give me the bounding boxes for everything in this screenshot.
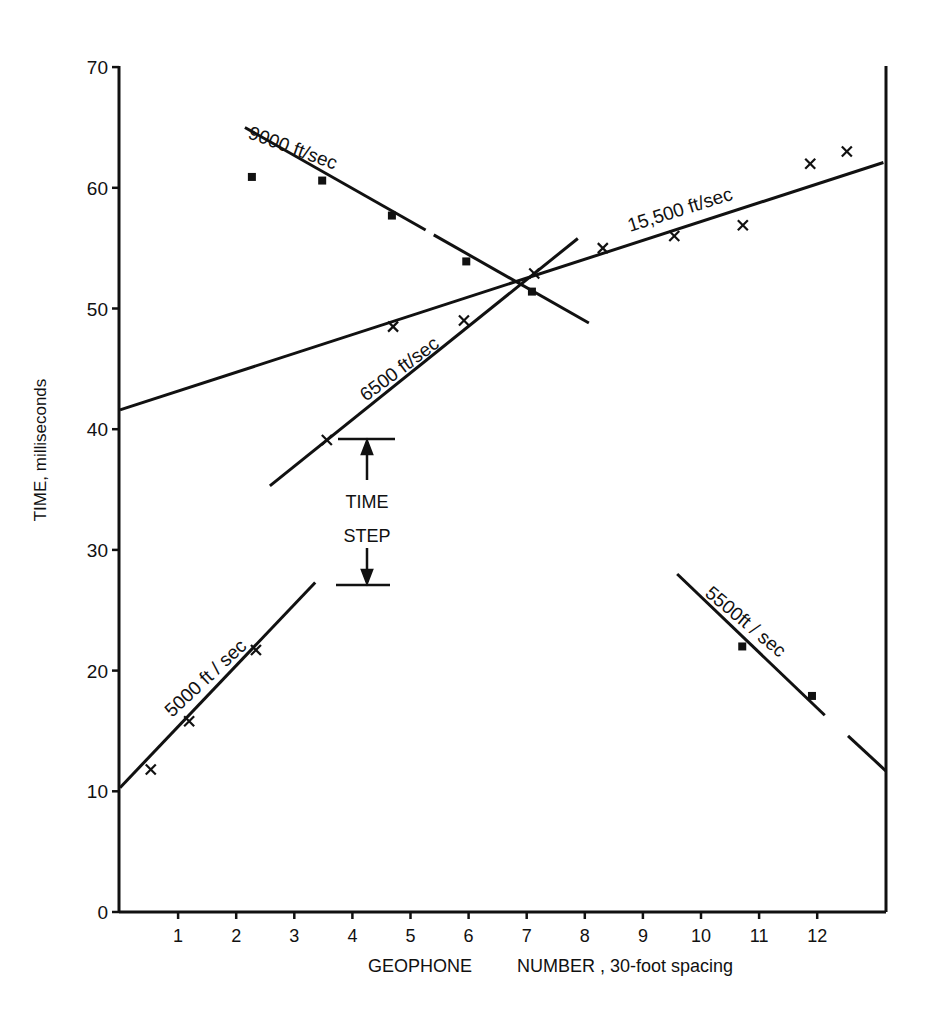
- x-marker: [669, 231, 679, 241]
- square-marker: [462, 257, 470, 265]
- y-tick-label: 30: [87, 540, 108, 561]
- x-marker: [388, 322, 398, 332]
- x-marker: [459, 316, 469, 326]
- square-marker: [738, 642, 746, 650]
- line-labels: 15,500 ft/sec 9000 ft/sec 6500 ft/sec 50…: [160, 122, 790, 721]
- fit-lines: [120, 127, 886, 787]
- x-tick-label: 9: [638, 926, 648, 946]
- x-tick-label: 11: [750, 926, 769, 946]
- x-marker: [738, 220, 748, 230]
- fit-line-segment: [677, 574, 825, 715]
- x-tick-label: 6: [464, 926, 474, 946]
- square-marker: [318, 177, 326, 185]
- arrow-up-icon: [362, 441, 372, 454]
- data-markers: [146, 147, 852, 775]
- x-tick-label: 1: [173, 926, 183, 946]
- y-tick-label: 60: [87, 178, 108, 199]
- x-tick-label: 7: [522, 926, 532, 946]
- x-marker: [184, 716, 194, 726]
- time-step-label-step: STEP: [343, 526, 390, 546]
- x-marker: [842, 147, 852, 157]
- x-tick-label: 12: [807, 926, 827, 946]
- time-step-label-time: TIME: [346, 492, 389, 512]
- x-axis-label-number: NUMBER , 30-foot spacing: [517, 956, 733, 976]
- x-marker: [805, 159, 815, 169]
- label-5000: 5000 ft / sec: [160, 635, 250, 721]
- x-tick-label: 10: [691, 926, 711, 946]
- y-tick-label: 20: [87, 661, 108, 682]
- axes: [119, 66, 886, 912]
- square-marker: [808, 692, 816, 700]
- y-axis-label: TIME, milliseconds: [31, 379, 50, 522]
- x-tick-label: 8: [580, 926, 590, 946]
- x-marker: [146, 765, 156, 775]
- refraction-time-distance-chart: 010203040506070 123456789101112 15,500 f…: [0, 0, 933, 1024]
- label-6500: 6500 ft/sec: [356, 332, 443, 405]
- x-ticks: 123456789101112: [173, 912, 827, 946]
- square-marker: [528, 288, 536, 296]
- fit-line-segment: [120, 162, 883, 409]
- square-marker: [388, 212, 396, 220]
- arrow-down-icon: [362, 570, 372, 583]
- fit-line-segment: [120, 582, 315, 787]
- x-axis-label-geophone: GEOPHONE: [368, 956, 472, 976]
- x-tick-label: 3: [289, 926, 299, 946]
- y-tick-label: 0: [97, 902, 108, 923]
- time-step-annotation: [336, 439, 395, 585]
- y-tick-label: 50: [87, 299, 108, 320]
- x-marker: [322, 435, 332, 445]
- label-9000: 9000 ft/sec: [246, 122, 341, 174]
- y-tick-label: 40: [87, 419, 108, 440]
- y-tick-label: 10: [87, 781, 108, 802]
- x-tick-label: 5: [405, 926, 415, 946]
- y-ticks: 010203040506070: [87, 57, 119, 923]
- fit-line-segment: [848, 736, 886, 771]
- x-tick-label: 2: [231, 926, 241, 946]
- y-tick-label: 70: [87, 57, 108, 78]
- x-tick-label: 4: [347, 926, 357, 946]
- square-marker: [248, 173, 256, 181]
- x-marker: [598, 243, 608, 253]
